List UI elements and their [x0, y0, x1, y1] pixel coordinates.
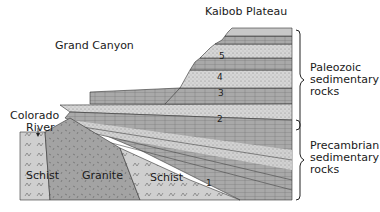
layer-3-number: 3 [218, 88, 224, 98]
precambrian-label: Precambrian sedimentary rocks [310, 140, 379, 176]
layer-4-3 [165, 88, 292, 104]
grand-canyon-label: Grand Canyon [55, 40, 134, 52]
layer-1-number: 1 [206, 178, 212, 188]
paleozoic-bracket [296, 30, 304, 130]
paleozoic-label: Paleozoic sedimentary rocks [310, 62, 379, 98]
granite-label: Granite [82, 170, 123, 182]
schist-left-label: Schist [26, 170, 59, 182]
layer-2-number: 2 [217, 114, 223, 124]
river-label: River [26, 122, 55, 134]
layer-5-number: 5 [219, 51, 225, 61]
layer-4-number: 4 [217, 72, 223, 82]
kaibob-plateau-label: Kaibob Plateau [205, 6, 287, 18]
schist-right-label: Schist [150, 172, 183, 184]
precambrian-bracket [296, 120, 304, 200]
